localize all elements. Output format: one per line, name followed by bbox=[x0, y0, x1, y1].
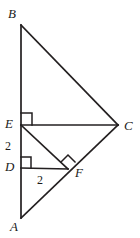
vertex-label-B: B bbox=[8, 7, 16, 20]
right-angle-mark-F bbox=[61, 155, 75, 162]
vertex-label-F: F bbox=[75, 166, 83, 179]
measure-label-ED: 2 bbox=[5, 140, 11, 153]
vertex-label-A: A bbox=[10, 220, 18, 233]
segment-group bbox=[21, 25, 118, 218]
measure-label-DF: 2 bbox=[37, 174, 43, 187]
segment-DF bbox=[21, 168, 68, 169]
vertex-label-D: D bbox=[5, 160, 14, 173]
right-angle-mark-E bbox=[21, 113, 32, 125]
vertex-label-C: C bbox=[124, 119, 133, 132]
segment-BC bbox=[21, 25, 118, 125]
geometry-canvas bbox=[0, 0, 140, 238]
geometry-figure: B C E D F A 2 2 bbox=[0, 0, 140, 238]
right-angle-mark-D bbox=[21, 157, 31, 168]
vertex-label-E: E bbox=[5, 117, 13, 130]
